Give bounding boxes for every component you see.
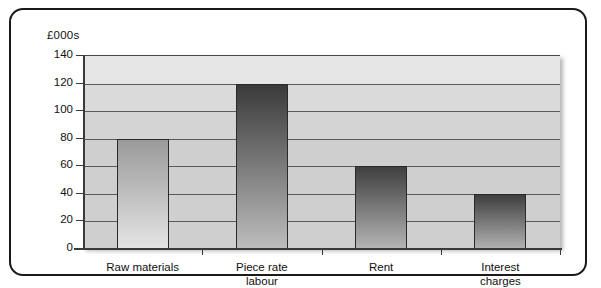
x-tick-mark <box>322 249 323 255</box>
bar <box>474 194 526 249</box>
y-tick-label: 120 <box>33 76 73 88</box>
x-tick-mark <box>560 249 561 255</box>
x-tick-mark <box>202 249 203 255</box>
y-tick-label: 0 <box>33 241 73 253</box>
chart-frame: £000s 020406080100120140 Raw materialsPi… <box>9 8 587 276</box>
category-label-line: Rent <box>321 260 441 274</box>
y-tick-label: 100 <box>33 103 73 115</box>
bar <box>355 166 407 249</box>
plot-band-third <box>83 111 560 139</box>
category-label: Interestcharges <box>440 260 560 288</box>
y-axis-line <box>83 55 85 249</box>
y-tick-100: 100 <box>29 110 73 111</box>
bar <box>236 84 288 249</box>
y-tick-label: 20 <box>33 213 73 225</box>
y-tick-label: 80 <box>33 131 73 143</box>
chart-screenshot: £000s 020406080100120140 Raw materialsPi… <box>0 0 601 288</box>
gridline-100 <box>83 111 560 112</box>
y-tick-label: 40 <box>33 186 73 198</box>
y-tick-mark-140 <box>76 55 83 56</box>
y-axis-unit-label: £000s <box>47 29 79 41</box>
category-label: Rent <box>321 260 441 274</box>
y-tick-label: 60 <box>33 158 73 170</box>
y-tick-mark-120 <box>76 83 83 84</box>
y-tick-20: 20 <box>29 220 73 221</box>
y-tick-120: 120 <box>29 83 73 84</box>
gridline-120 <box>83 84 560 85</box>
y-tick-140: 140 <box>29 55 73 56</box>
category-label-line: Raw materials <box>83 260 203 274</box>
plot-band-second <box>83 84 560 112</box>
bar <box>117 139 169 249</box>
category-label: Raw materials <box>83 260 203 274</box>
y-tick-60: 60 <box>29 165 73 166</box>
category-label-line: charges <box>440 274 560 288</box>
y-tick-40: 40 <box>29 193 73 194</box>
y-tick-label: 140 <box>33 48 73 60</box>
category-label: Piece ratelabour <box>202 260 322 288</box>
y-tick-mark-0 <box>76 248 83 249</box>
y-tick-mark-20 <box>76 220 83 221</box>
plot-band-top <box>83 56 560 84</box>
x-tick-mark <box>441 249 442 255</box>
x-axis-line <box>74 248 562 250</box>
y-tick-mark-80 <box>76 138 83 139</box>
y-tick-mark-60 <box>76 165 83 166</box>
y-tick-mark-100 <box>76 110 83 111</box>
y-tick-80: 80 <box>29 138 73 139</box>
y-tick-mark-40 <box>76 193 83 194</box>
category-label-line: labour <box>202 274 322 288</box>
category-label-line: Interest <box>440 260 560 274</box>
category-label-line: Piece rate <box>202 260 322 274</box>
y-tick-0: 0 <box>29 248 73 249</box>
plot-area <box>83 55 560 248</box>
